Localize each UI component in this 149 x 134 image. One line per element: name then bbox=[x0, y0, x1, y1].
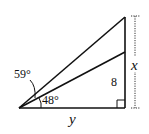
label-angle-59: 59° bbox=[14, 67, 31, 81]
inner-hypotenuse bbox=[19, 52, 125, 108]
triangle-diagram: 59° 48° 8 x y bbox=[0, 0, 149, 134]
angle-arc-48 bbox=[39, 98, 41, 108]
label-side-x: x bbox=[130, 57, 138, 73]
right-angle-marker bbox=[117, 100, 125, 108]
label-side-y: y bbox=[67, 111, 76, 127]
label-angle-48: 48° bbox=[42, 93, 59, 107]
label-side-8: 8 bbox=[111, 75, 117, 89]
